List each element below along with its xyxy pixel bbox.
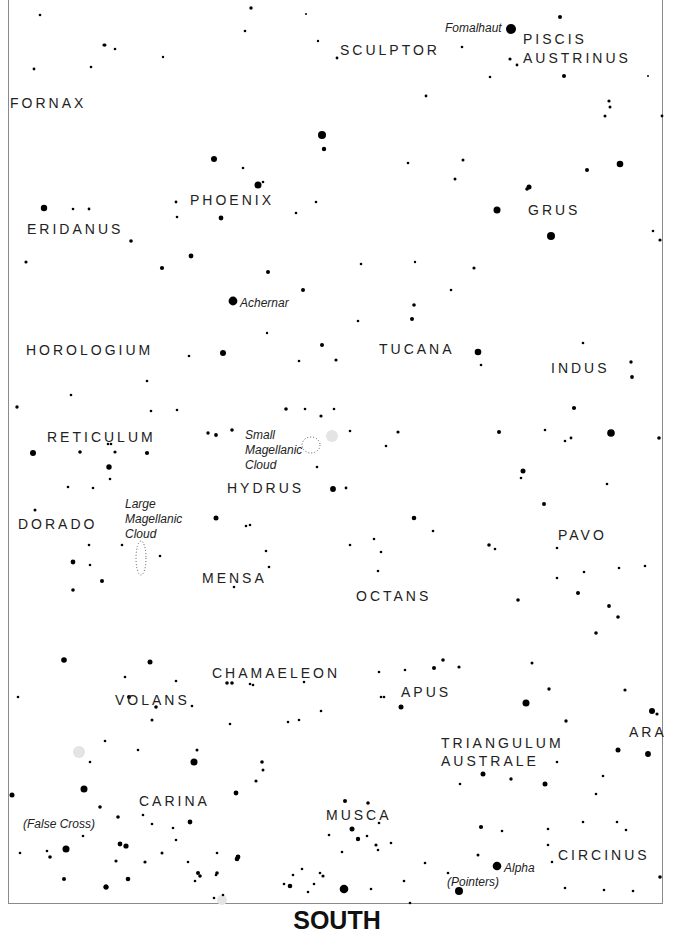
star [175, 680, 178, 683]
star [625, 829, 628, 832]
star [162, 56, 164, 58]
star [330, 486, 336, 492]
star [46, 850, 49, 853]
constellation-label-hydrus: HYDRUS [227, 480, 304, 496]
star [481, 772, 486, 777]
star [260, 760, 264, 764]
star [104, 885, 109, 890]
star [252, 684, 255, 687]
star [321, 874, 324, 877]
star [489, 76, 492, 79]
star [214, 433, 218, 437]
star [661, 115, 664, 118]
star [129, 239, 133, 243]
star [607, 99, 610, 102]
star [33, 68, 36, 71]
constellation-label-volans: VOLANS [115, 692, 190, 708]
star-name-label-alpha: Alpha [504, 861, 535, 875]
star [109, 478, 112, 481]
constellation-label-horologium: HOROLOGIUM [26, 342, 153, 358]
star [658, 875, 662, 879]
star [295, 212, 298, 215]
star [459, 783, 462, 786]
star-name-label-false-cross: (False Cross) [23, 817, 95, 831]
star [175, 839, 178, 842]
star [472, 266, 475, 269]
star [409, 902, 412, 905]
star [318, 131, 326, 139]
star [229, 723, 232, 726]
star [89, 564, 92, 567]
direction-label-south: SOUTH [0, 906, 674, 933]
star [191, 705, 194, 708]
star [629, 360, 632, 363]
constellation-label-triangulum-australe-1: TRIANGULUM [441, 735, 564, 751]
star [229, 297, 238, 306]
star [262, 181, 265, 184]
star [441, 658, 445, 662]
star [390, 842, 393, 845]
star [556, 761, 559, 764]
star [616, 821, 619, 824]
star [497, 430, 501, 434]
star [114, 859, 117, 862]
star [341, 851, 344, 854]
star [145, 451, 149, 455]
star [407, 162, 410, 165]
star [194, 880, 197, 883]
star [349, 430, 352, 433]
star [322, 147, 326, 151]
constellation-label-mensa: MENSA [202, 570, 267, 586]
star [343, 799, 347, 803]
star [410, 317, 414, 321]
star [150, 410, 153, 413]
star [15, 405, 18, 408]
star [266, 270, 270, 274]
nebula-glow [217, 895, 227, 905]
star [570, 437, 573, 440]
star [255, 182, 262, 189]
star [106, 464, 111, 469]
star [24, 260, 27, 263]
star [10, 793, 15, 798]
star [380, 696, 383, 699]
star [234, 791, 239, 796]
star [63, 846, 70, 853]
star [425, 95, 428, 98]
star [564, 719, 567, 722]
constellation-label-piscis-austrinus-2: AUSTRINUS [523, 50, 631, 66]
star [88, 544, 91, 547]
star [531, 662, 534, 665]
star [516, 598, 520, 602]
star [230, 428, 234, 432]
star [508, 57, 511, 60]
star [377, 849, 380, 852]
star [457, 665, 460, 668]
star [148, 660, 153, 665]
star [547, 844, 550, 847]
star [336, 57, 339, 60]
star [607, 604, 611, 608]
star [230, 681, 234, 685]
star-name-label-lmc-1: Large [125, 497, 156, 511]
star [562, 74, 566, 78]
star [67, 486, 70, 489]
star [377, 570, 380, 573]
star [222, 894, 225, 897]
star [319, 872, 322, 875]
star [450, 289, 453, 292]
star [61, 657, 67, 663]
constellation-label-chamaeleon: CHAMAELEON [212, 665, 340, 681]
star [245, 525, 248, 528]
star [475, 349, 482, 356]
star [284, 407, 288, 411]
star [196, 749, 199, 752]
star [525, 187, 529, 191]
star [583, 571, 586, 574]
star [618, 567, 621, 570]
star [304, 408, 307, 411]
star [378, 671, 381, 674]
constellation-label-circinus: CIRCINUS [558, 847, 650, 863]
star [159, 555, 162, 558]
star [142, 814, 145, 817]
